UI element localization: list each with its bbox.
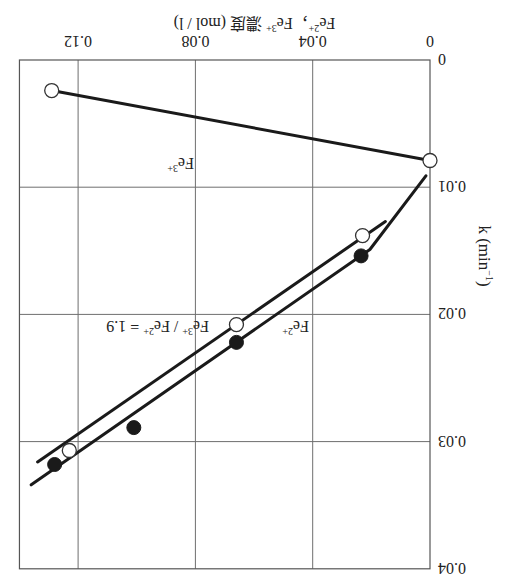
y-tick-label: 0.03 bbox=[438, 433, 466, 450]
open-circle-marker bbox=[45, 84, 59, 98]
series-0 bbox=[45, 84, 437, 168]
y-tick-label: 0.02 bbox=[438, 305, 466, 322]
filled-circle-marker bbox=[229, 335, 243, 349]
series-2 bbox=[38, 222, 386, 463]
filled-circle-marker bbox=[127, 421, 141, 435]
label-ratio: Fe3+ / Fe2+ = 1.9 bbox=[106, 318, 209, 337]
label-fe3: Fe3+ bbox=[167, 155, 194, 174]
filled-circle-marker bbox=[354, 249, 368, 263]
label-fe2: Fe2+ bbox=[282, 318, 309, 337]
x-axis-title: Fe2+，Fe3+ 濃度 (mol / l) bbox=[174, 14, 336, 34]
y-tick-label: 0.04 bbox=[438, 560, 466, 577]
y-tick-label: 0 bbox=[438, 51, 446, 68]
series-line bbox=[38, 222, 386, 463]
filled-circle-marker bbox=[48, 457, 62, 471]
open-circle-marker bbox=[62, 444, 76, 458]
chart-figure: 00.040.080.1200.010.020.030.04 Fe2+，Fe3+… bbox=[0, 0, 509, 586]
y-tick-label: 0.01 bbox=[438, 178, 466, 195]
grid bbox=[19, 60, 430, 569]
y-axis-title: k (min−1) bbox=[475, 225, 495, 286]
svg-text:k (min−1): k (min−1) bbox=[475, 225, 495, 286]
open-circle-marker bbox=[423, 153, 437, 167]
x-tick-label: 0.04 bbox=[299, 33, 327, 50]
x-tick-label: 0 bbox=[426, 33, 434, 50]
open-circle-marker bbox=[356, 229, 370, 243]
series-line bbox=[52, 91, 430, 161]
open-circle-marker bbox=[229, 318, 243, 332]
x-tick-label: 0.12 bbox=[64, 33, 92, 50]
chart-svg: 00.040.080.1200.010.020.030.04 Fe2+，Fe3+… bbox=[0, 0, 509, 586]
data-series bbox=[31, 84, 437, 485]
rotated-figure: 00.040.080.1200.010.020.030.04 Fe2+，Fe3+… bbox=[19, 14, 495, 577]
x-tick-label: 0.08 bbox=[181, 33, 209, 50]
